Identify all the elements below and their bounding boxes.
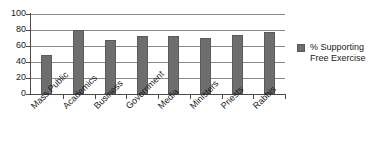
x-axis-tick-mark xyxy=(285,95,286,99)
gridline xyxy=(31,46,285,47)
legend-label-line2: Free Exercise xyxy=(310,53,366,63)
bar-chart-figure: 100 80 60 40 20 0 Mass PublicAcademicsBu… xyxy=(0,0,392,157)
y-axis-tick-label: 60 xyxy=(0,41,26,50)
x-axis-tick-mark xyxy=(190,95,191,99)
chart-legend: % Supporting Free Exercise xyxy=(297,42,366,64)
x-axis-tick-mark xyxy=(126,95,127,99)
y-axis-tick-label: 80 xyxy=(0,25,26,34)
y-axis-tick-label: 20 xyxy=(0,73,26,82)
legend-label: % Supporting Free Exercise xyxy=(310,42,366,64)
x-axis-tick-mark xyxy=(253,95,254,99)
gridline xyxy=(31,14,285,15)
gridline xyxy=(31,62,285,63)
y-axis-tick-label: 100 xyxy=(0,9,26,18)
x-axis-tick-mark xyxy=(95,95,96,99)
gridline xyxy=(31,30,285,31)
bar xyxy=(168,36,179,94)
y-axis-tick-label: 40 xyxy=(0,57,26,66)
y-axis-tick-label: 0 xyxy=(0,89,26,98)
x-axis-tick-mark xyxy=(158,95,159,99)
x-axis-tick-mark xyxy=(63,95,64,99)
legend-label-line1: % Supporting xyxy=(310,42,364,52)
y-axis-tick-labels: 100 80 60 40 20 0 xyxy=(0,0,26,157)
x-axis-tick-mark xyxy=(222,95,223,99)
legend-swatch-icon xyxy=(297,44,305,52)
